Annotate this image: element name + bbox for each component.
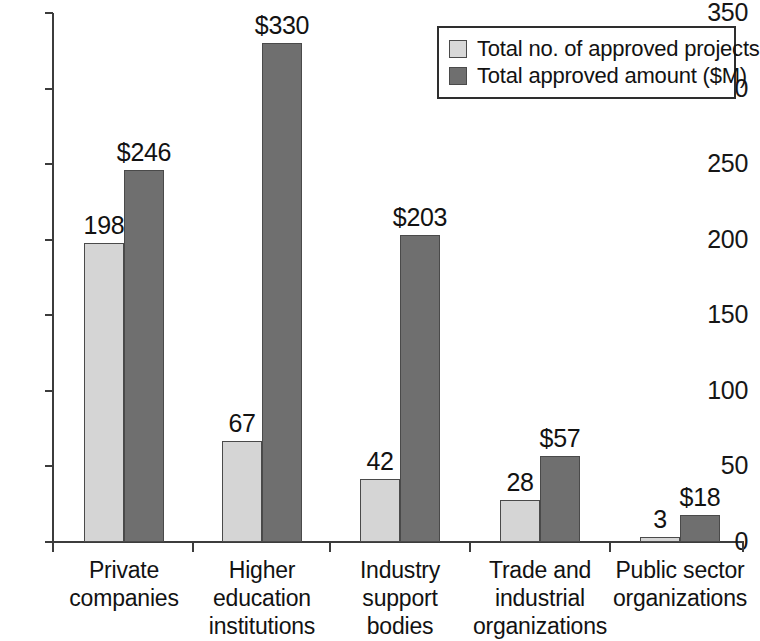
category-label-line: bodies [320, 612, 480, 640]
x-axis-tick [329, 543, 331, 552]
legend-swatch-icon-series-0 [449, 40, 467, 58]
bar-series-1-category-4[interactable] [680, 515, 720, 542]
category-label-line: Trade and [460, 556, 620, 584]
legend-label-series-0: Total no. of approved projects [477, 37, 760, 61]
y-axis-tick [45, 88, 53, 90]
y-axis-tick [45, 163, 53, 165]
bar-value-label-series-1-category-0: $246 [102, 140, 186, 165]
chart-legend: Total no. of approved projects Total app… [437, 26, 736, 99]
bar-series-1-category-1[interactable] [262, 43, 302, 542]
legend-swatch-icon-series-1 [449, 67, 467, 85]
x-axis-category-label-1: Highereducationinstitutions [182, 556, 342, 640]
bar-value-label-series-1-category-4: $18 [658, 485, 742, 510]
category-label-line: Higher [182, 556, 342, 584]
category-label-line: support [320, 584, 480, 612]
category-label-line: organizations [600, 584, 760, 612]
bar-value-label-series-1-category-2: $203 [378, 205, 462, 230]
x-axis-category-label-0: Privatecompanies [44, 556, 204, 612]
category-label-line: organizations [460, 612, 620, 640]
x-axis-tick [609, 543, 611, 552]
x-axis-tick [192, 543, 194, 552]
category-label-line: Public sector [600, 556, 760, 584]
y-axis-tick [45, 239, 53, 241]
y-axis-tick [45, 465, 53, 467]
x-axis-category-label-2: Industrysupportbodies [320, 556, 480, 640]
bar-series-0-category-1[interactable] [222, 441, 262, 542]
bar-series-1-category-0[interactable] [124, 170, 164, 542]
category-label-line: Private [44, 556, 204, 584]
x-axis-category-label-4: Public sectororganizations [600, 556, 760, 612]
bar-series-0-category-2[interactable] [360, 479, 400, 542]
x-axis-tick [469, 543, 471, 552]
category-label-line: education [182, 584, 342, 612]
y-axis-tick [45, 12, 53, 14]
category-label-line: industrial [460, 584, 620, 612]
x-axis-category-label-3: Trade andindustrialorganizations [460, 556, 620, 640]
bar-series-0-category-4[interactable] [640, 537, 680, 542]
bar-series-0-category-3[interactable] [500, 500, 540, 542]
legend-item-series-0[interactable]: Total no. of approved projects [449, 35, 724, 62]
category-label-line: Industry [320, 556, 480, 584]
category-label-line: institutions [182, 612, 342, 640]
category-label-line: companies [44, 584, 204, 612]
y-axis-tick [45, 390, 53, 392]
bar-value-label-series-1-category-1: $330 [240, 13, 324, 38]
legend-label-series-1: Total approved amount ($M) [477, 64, 747, 88]
x-axis-tick [52, 543, 54, 552]
y-axis-tick [45, 314, 53, 316]
bar-series-1-category-2[interactable] [400, 235, 440, 542]
legend-item-series-1[interactable]: Total approved amount ($M) [449, 62, 724, 89]
bar-series-1-category-3[interactable] [540, 456, 580, 542]
bar-series-0-category-0[interactable] [84, 243, 124, 542]
bar-value-label-series-1-category-3: $57 [518, 426, 602, 451]
x-axis-tick [742, 543, 744, 552]
